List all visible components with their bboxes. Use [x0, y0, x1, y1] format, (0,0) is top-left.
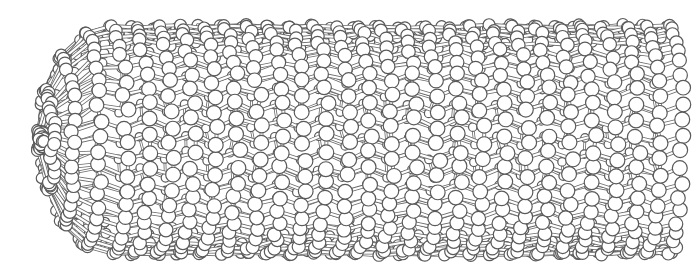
carbon-atom [316, 204, 330, 218]
carbon-atom [226, 81, 241, 96]
carbon-atom [140, 67, 154, 81]
carbon-atom [542, 175, 557, 190]
carbon-atom [450, 66, 464, 80]
carbon-atom [273, 191, 288, 206]
carbon-atom [340, 167, 355, 182]
carbon-atom [313, 218, 327, 232]
carbon-atom [430, 121, 445, 136]
carbon-atom [449, 43, 463, 57]
carbon-atom [405, 66, 419, 80]
carbon-atom [586, 95, 601, 110]
carbon-atom [606, 222, 620, 236]
carbon-atom [520, 75, 534, 89]
carbon-atom [450, 126, 465, 141]
carbon-atom [578, 42, 592, 56]
carbon-atom [653, 168, 668, 183]
carbon-atom [676, 97, 691, 112]
carbon-atom [630, 191, 645, 206]
carbon-atom [89, 98, 104, 113]
carbon-atom [140, 177, 155, 192]
carbon-atom [183, 81, 198, 96]
carbon-atom [361, 143, 376, 158]
carbon-atom [248, 197, 262, 211]
carbon-atom [566, 152, 581, 167]
carbon-atom [185, 68, 199, 82]
carbon-atom [675, 112, 690, 127]
carbon-atom [492, 216, 506, 230]
carbon-atom [117, 121, 132, 136]
carbon-atom [362, 95, 377, 110]
carbon-atom [162, 198, 176, 212]
carbon-atom [361, 217, 375, 231]
carbon-atom [429, 168, 444, 183]
carbon-atom [92, 201, 106, 215]
carbon-atom [363, 66, 377, 80]
carbon-atom [540, 110, 555, 125]
carbon-atom [651, 199, 665, 213]
carbon-atom [338, 48, 352, 62]
carbon-atom [344, 119, 359, 134]
carbon-atom [607, 90, 622, 105]
carbon-atom [341, 73, 355, 87]
carbon-atom [500, 146, 515, 161]
carbon-atom [208, 137, 223, 152]
carbon-atom [182, 161, 197, 176]
carbon-atom [517, 48, 531, 62]
carbon-atom [521, 121, 536, 136]
carbon-atom [653, 136, 668, 151]
carbon-atom [142, 111, 157, 126]
carbon-atom [361, 113, 376, 128]
carbon-atom [494, 191, 509, 206]
carbon-atom [298, 169, 313, 184]
carbon-atom [627, 129, 642, 144]
carbon-atom [156, 37, 169, 50]
carbon-atom [632, 176, 647, 191]
carbon-atom [206, 106, 221, 121]
carbon-atom [630, 67, 644, 81]
carbon-atom [559, 60, 573, 74]
carbon-atom [586, 146, 601, 161]
carbon-atom [541, 202, 555, 216]
carbon-atom [165, 121, 180, 136]
carbon-atom [428, 60, 442, 74]
carbon-atom [381, 59, 395, 73]
carbon-atom [270, 43, 284, 57]
carbon-atom [143, 161, 158, 176]
nanotube-figure [0, 0, 700, 274]
carbon-atom [188, 126, 203, 141]
carbon-atom [94, 175, 109, 190]
carbon-atom [166, 167, 181, 182]
carbon-atom [497, 129, 512, 144]
carbon-atom [161, 135, 176, 150]
carbon-atom [142, 82, 157, 97]
carbon-atom [676, 128, 691, 143]
carbon-atom [362, 80, 377, 95]
carbon-atom [608, 196, 622, 210]
carbon-atom [384, 184, 399, 199]
carbon-atom [653, 89, 668, 104]
carbon-atom [276, 129, 291, 144]
carbon-atom [430, 185, 445, 200]
carbon-atom [343, 134, 358, 149]
carbon-atom [361, 191, 376, 206]
carbon-atom [233, 142, 248, 157]
carbon-atom [253, 152, 268, 167]
carbon-atom [629, 160, 644, 175]
carbon-atom [472, 103, 487, 118]
carbon-atom [564, 105, 579, 120]
carbon-atom [583, 55, 597, 69]
carbon-atom [562, 135, 577, 150]
carbon-atom [137, 205, 151, 219]
carbon-atom [210, 119, 225, 134]
carbon-atom [204, 76, 218, 90]
carbon-atom [497, 96, 512, 111]
carbon-atom [384, 151, 399, 166]
carbon-atom [517, 62, 531, 76]
carbon-atom [208, 90, 223, 105]
carbon-atom [120, 135, 135, 150]
carbon-atom [454, 110, 469, 125]
carbon-atom [497, 159, 512, 174]
carbon-atom [406, 110, 421, 125]
carbon-atom [254, 118, 269, 133]
carbon-atom [319, 145, 334, 160]
